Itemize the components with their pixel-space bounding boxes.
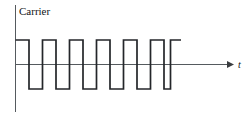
time-axis-arrow-icon (227, 61, 234, 68)
carrier-waveform-figure: Carrier t (0, 0, 249, 122)
signal-label: Carrier (19, 5, 50, 17)
x-axis-label: t (238, 59, 241, 70)
waveform-diagram: Carrier t (0, 0, 249, 122)
